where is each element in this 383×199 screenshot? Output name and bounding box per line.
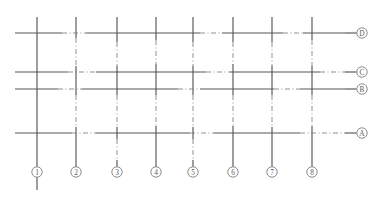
grid-bubble-col-6[interactable]: 6 [228,167,238,177]
grid-bubble-col-1[interactable]: 1 [32,167,42,177]
grid-bubble-label: D [359,29,365,38]
grid-bubble-label: 6 [231,168,235,177]
grid-drawing-canvas: DCBA 12345678 [0,0,383,199]
grid-svg: DCBA 12345678 [0,0,383,199]
vertical-grid-bubbles[interactable]: 12345678 [32,167,317,177]
grid-bubble-label: B [360,85,365,94]
grid-bubble-col-7[interactable]: 7 [267,167,277,177]
grid-bubble-label: 1 [35,168,39,177]
grid-leaders-layer [37,33,357,190]
grid-bubble-row-A[interactable]: A [357,128,367,138]
grid-bubble-label: C [360,68,365,77]
grid-bubble-col-4[interactable]: 4 [151,167,161,177]
grid-bubble-label: 8 [310,168,314,177]
grid-bubble-label: A [359,129,365,138]
grid-bubble-col-3[interactable]: 3 [112,167,122,177]
grid-bubble-label: 5 [191,168,195,177]
grid-bubble-row-B[interactable]: B [357,84,367,94]
grid-bubble-label: 2 [74,168,78,177]
grid-bubble-label: 3 [115,168,119,177]
grid-bubble-label: 4 [154,168,158,177]
grid-bubble-col-5[interactable]: 5 [188,167,198,177]
grid-bubble-label: 7 [270,168,274,177]
horizontal-grid-bubbles[interactable]: DCBA [357,28,367,138]
grid-bubble-col-8[interactable]: 8 [307,167,317,177]
grid-bubble-row-D[interactable]: D [357,28,367,38]
horizontal-gridlines-layer [15,33,345,133]
grid-bubble-col-2[interactable]: 2 [71,167,81,177]
grid-bubble-row-C[interactable]: C [357,67,367,77]
